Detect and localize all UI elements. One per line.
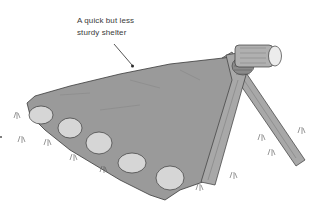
edge-mark [0,136,2,138]
annotation-leader [114,44,134,68]
stone-1 [29,106,53,124]
stone-3 [86,132,112,154]
stone-5 [156,166,184,190]
stone-4 [118,153,146,173]
stone-2 [58,118,82,138]
ridge-log [235,45,282,67]
shelter-illustration [0,0,321,219]
